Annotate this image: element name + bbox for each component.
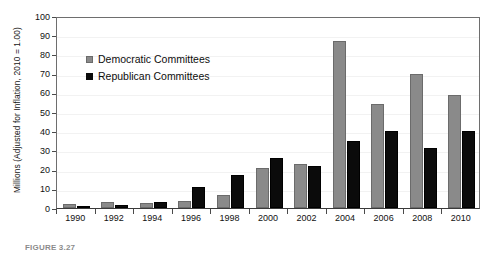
x-tick-mark [403, 209, 404, 214]
bar-republican-1994 [154, 202, 167, 208]
x-tick-mark [364, 209, 365, 214]
y-tick-label: 100 [8, 13, 50, 22]
y-tick-label: 90 [8, 32, 50, 41]
bar-republican-2004 [347, 141, 360, 208]
x-tick-mark [56, 209, 57, 214]
bar-democratic-2000 [256, 168, 269, 208]
y-tick-label: 10 [8, 185, 50, 194]
figure-container: Millions (Adjusted for Inflation, 2010 =… [0, 0, 492, 256]
bar-democratic-1996 [178, 201, 191, 208]
bar-democratic-2004 [333, 41, 346, 208]
legend-label-democratic: Democratic Committees [98, 54, 210, 65]
bar-democratic-2010 [448, 95, 461, 208]
bar-democratic-2006 [371, 104, 384, 208]
x-tick-mark [133, 209, 134, 214]
bar-republican-2010 [462, 131, 475, 208]
bar-republican-1992 [115, 205, 128, 208]
legend-item-democratic: Democratic Committees [86, 52, 210, 66]
bar-democratic-2008 [410, 74, 423, 208]
x-tick-mark [95, 209, 96, 214]
y-tick-label: 0 [8, 205, 50, 214]
legend-swatch-icon-democratic [86, 56, 93, 63]
x-tick-label: 1990 [55, 213, 95, 223]
figure-caption: FIGURE 3.27 [25, 243, 75, 252]
x-tick-label: 2006 [364, 213, 404, 223]
x-tick-mark [249, 209, 250, 214]
bar-republican-2006 [385, 131, 398, 208]
x-tick-label: 2000 [248, 213, 288, 223]
bar-republican-2000 [270, 158, 283, 208]
y-tick-label: 70 [8, 70, 50, 79]
bar-republican-1996 [192, 187, 205, 208]
y-tick-label: 50 [8, 109, 50, 118]
x-tick-mark [210, 209, 211, 214]
x-tick-label: 1994 [132, 213, 172, 223]
legend-swatch-icon-republican [86, 73, 93, 80]
legend-label-republican: Republican Committees [98, 71, 209, 82]
x-tick-label: 1996 [171, 213, 211, 223]
x-tick-mark [326, 209, 327, 214]
bar-republican-2002 [308, 166, 321, 208]
x-tick-mark [287, 209, 288, 214]
plot-area [56, 17, 480, 209]
x-tick-label: 2010 [441, 213, 481, 223]
y-tick-label: 60 [8, 89, 50, 98]
x-tick-label: 2008 [402, 213, 442, 223]
bar-democratic-1990 [63, 204, 76, 208]
y-tick-label: 80 [8, 51, 50, 60]
bar-republican-1990 [77, 206, 90, 208]
bar-democratic-1994 [140, 203, 153, 208]
y-tick-label: 40 [8, 128, 50, 137]
gridline [57, 37, 479, 38]
y-tick-label: 20 [8, 166, 50, 175]
x-tick-label: 2002 [287, 213, 327, 223]
x-tick-label: 1992 [94, 213, 134, 223]
x-tick-label: 2004 [325, 213, 365, 223]
legend-item-republican: Republican Committees [86, 69, 210, 83]
bar-republican-1998 [231, 175, 244, 208]
y-tick-label: 30 [8, 147, 50, 156]
bar-democratic-1998 [217, 195, 230, 208]
x-tick-mark [172, 209, 173, 214]
bar-democratic-1992 [101, 202, 114, 208]
bar-democratic-2002 [294, 164, 307, 208]
x-tick-mark [441, 209, 442, 214]
legend: Democratic Committees Republican Committ… [86, 52, 210, 86]
x-tick-label: 1998 [209, 213, 249, 223]
bar-republican-2008 [424, 148, 437, 208]
